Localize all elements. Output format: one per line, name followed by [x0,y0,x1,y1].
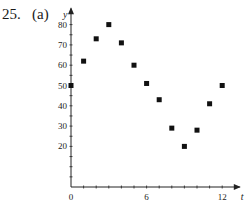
y-axis-arrow-icon [68,7,74,14]
data-point [144,81,149,86]
data-point [182,144,187,149]
data-point [106,22,111,27]
data-point [157,97,162,102]
data-points [69,22,225,149]
y-tick-label: 60 [58,60,68,70]
axes: 203040506070800612yt [58,7,244,202]
data-point [94,36,99,41]
y-tick-label: 20 [58,141,68,151]
x-axis-arrow-icon [234,184,241,190]
x-tick-label: 0 [69,192,74,202]
x-axis-title: t [241,191,244,202]
data-point [69,83,74,88]
data-point [207,101,212,106]
data-point [119,40,124,45]
y-tick-label: 70 [58,40,68,50]
y-tick-label: 30 [58,121,68,131]
data-point [220,83,225,88]
data-point [132,63,137,68]
y-tick-label: 50 [58,81,68,91]
data-point [81,59,86,64]
y-tick-label: 40 [58,101,68,111]
y-axis-title: y [62,9,68,20]
y-tick-label: 80 [58,20,68,30]
scatter-plot: 203040506070800612yt [0,0,248,205]
data-point [195,128,200,133]
x-tick-label: 6 [144,192,149,202]
data-point [169,126,174,131]
x-tick-label: 12 [218,192,227,202]
